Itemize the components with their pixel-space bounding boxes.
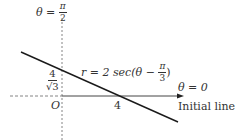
curve-equation-rhs: ) bbox=[166, 66, 170, 79]
y-intercept-label: 4 √3 bbox=[46, 69, 59, 92]
curve-equation-lhs: r = 2 sec(θ − bbox=[81, 66, 155, 79]
x-intercept-label: 4 bbox=[114, 100, 121, 111]
fraction-numerator: π bbox=[59, 2, 67, 13]
fraction-numerator: 4 bbox=[48, 69, 56, 81]
vertical-axis-label-lhs: θ = bbox=[36, 6, 55, 19]
fraction-denominator: 2 bbox=[60, 13, 66, 23]
pi-over-2-fraction: π 2 bbox=[59, 2, 67, 23]
curve-equation-label: r = 2 sec(θ − π 3 ) bbox=[81, 62, 171, 83]
origin-label: O bbox=[51, 100, 60, 111]
fraction-denominator: √3 bbox=[46, 81, 59, 92]
initial-line-arrowhead bbox=[177, 94, 184, 99]
fraction-denominator: 3 bbox=[160, 73, 166, 83]
initial-angle-label: θ = 0 bbox=[178, 82, 208, 93]
four-over-root3-fraction: 4 √3 bbox=[46, 69, 59, 92]
vertical-axis-label: θ = π 2 bbox=[36, 2, 67, 23]
initial-line-label: Initial line bbox=[178, 101, 235, 112]
